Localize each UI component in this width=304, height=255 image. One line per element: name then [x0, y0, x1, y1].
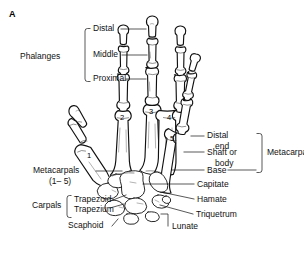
label-metacarpal-base: Base [207, 166, 226, 175]
metacarpal-number-1: 1 [87, 151, 91, 160]
label-middle-phalanx: Middle [93, 50, 118, 59]
label-scaphoid: Scaphoid [68, 221, 103, 230]
panel-letter-a: A [9, 9, 16, 19]
hand-skeleton-drawing: 3 2 [0, 0, 304, 255]
hand-skeleton-figure: 3 2 [0, 0, 304, 255]
metacarpal-number-2: 2 [120, 113, 124, 122]
label-metacarpal-group: Metacarpal [267, 148, 304, 157]
metacarpal-number-5: 5 [170, 134, 174, 143]
label-metacarpal-shaft: Shaft or [207, 148, 237, 157]
label-proximal-phalanx: Proximal [93, 74, 126, 83]
metacarpal-number-3: 3 [149, 107, 153, 116]
label-capitate: Capitate [197, 180, 229, 189]
label-hamate: Hamate [197, 195, 227, 204]
metacarpal-number-4: 4 [167, 113, 171, 122]
label-trapezoid: Trapezoid [74, 195, 111, 204]
label-triquetrum: Triquetrum [196, 210, 237, 219]
label-trapezium: Trapezium [74, 205, 114, 214]
label-distal-phalanx: Distal [93, 24, 114, 33]
label-lunate: Lunate [172, 222, 198, 231]
label-metacarpals: Metacarpals [33, 166, 79, 175]
label-metacarpal-distal: Distal [207, 131, 228, 140]
label-carpals: Carpals [32, 201, 61, 210]
label-phalanges: Phalanges [20, 52, 60, 61]
label-metacarpals-range: (1– 5) [49, 177, 71, 186]
